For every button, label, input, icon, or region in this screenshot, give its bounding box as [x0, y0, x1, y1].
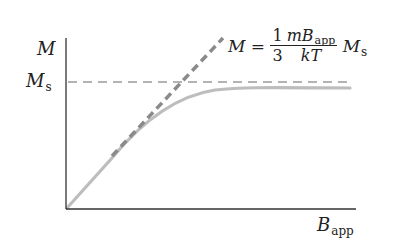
saturation-label-sub: s — [45, 80, 51, 94]
coef-numerator: 1 — [270, 28, 284, 46]
field-fraction: mBapp kT — [285, 28, 338, 64]
curie-law-tangent-line — [112, 38, 223, 156]
saturation-label: Ms — [26, 72, 52, 90]
x-axis-label: Bapp — [317, 216, 354, 234]
coef-denominator: 3 — [270, 46, 284, 64]
coefficient-fraction: 1 3 — [270, 28, 284, 64]
equation-rhs: Ms — [343, 36, 368, 56]
field-denominator: kT — [285, 46, 338, 64]
x-axis-label-main: B — [317, 214, 330, 235]
x-axis-label-sub: app — [331, 224, 354, 238]
curie-law-equation: M = 1 3 mBapp kT Ms — [228, 28, 367, 64]
field-numerator: mBapp — [285, 28, 338, 46]
equation-equals: = — [251, 36, 265, 56]
magnetization-curve — [67, 88, 350, 208]
equation-lhs: M — [228, 36, 245, 56]
y-axis-label: M — [37, 40, 55, 58]
saturation-label-main: M — [26, 70, 44, 91]
